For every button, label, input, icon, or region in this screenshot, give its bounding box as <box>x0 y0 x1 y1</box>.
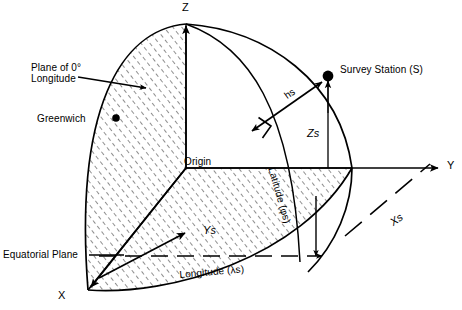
origin-label: Origin <box>184 156 211 168</box>
survey-station-point <box>323 71 334 82</box>
xs-axis-dashed <box>345 164 430 236</box>
plane-of-zero-longitude-label-line1: Plane of 0° <box>31 62 81 74</box>
axis-label-y: Y <box>447 160 454 172</box>
axis-label-z: Z <box>182 2 189 14</box>
zs-component-label: Zs <box>307 128 319 140</box>
ys-component-label: Ys <box>203 225 216 237</box>
greenwich-label: Greenwich <box>37 113 86 125</box>
axis-label-x: X <box>58 290 65 302</box>
survey-station-label-suffix: ) <box>420 64 423 75</box>
survey-station-label-prefix: Survey Station ( <box>340 64 413 75</box>
equatorial-plane-label: Equatorial Plane <box>3 249 78 261</box>
survey-station-label-symbol: S <box>413 64 420 75</box>
greenwich-point <box>112 114 120 122</box>
survey-station-label: Survey Station (S) <box>340 64 423 76</box>
geocentric-coordinate-diagram: Z Y X Origin Plane of 0° Longitude Green… <box>0 0 462 310</box>
plane-of-zero-longitude-label-line2: Longitude <box>31 73 76 85</box>
